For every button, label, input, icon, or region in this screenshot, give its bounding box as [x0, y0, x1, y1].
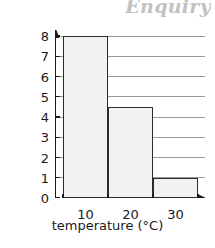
chart-svg [55, 30, 205, 198]
y-tick-label-3: 3 [33, 131, 49, 144]
y-tick-label-6: 6 [33, 71, 49, 84]
bar-20[interactable] [109, 107, 153, 198]
y-axis-arrow-icon [55, 30, 60, 38]
plot-area [55, 30, 205, 198]
y-tick-label-4: 4 [33, 111, 49, 124]
y-tick-label-7: 7 [33, 50, 49, 63]
y-tick-label-8: 8 [33, 30, 49, 43]
x-axis-label: temperature (°C) [0, 218, 215, 233]
y-tick-label-2: 2 [33, 152, 49, 165]
bar-30[interactable] [154, 178, 198, 198]
watermark-text: Enquiry [125, 0, 211, 17]
y-tick-label-0: 0 [33, 192, 49, 205]
bar-10[interactable] [64, 37, 108, 199]
y-tick-label-5: 5 [33, 91, 49, 104]
y-tick-label-1: 1 [33, 172, 49, 185]
chart-figure: Enquiry time for indicator to change col… [0, 0, 215, 248]
x-axis-arrow-icon [198, 194, 205, 198]
